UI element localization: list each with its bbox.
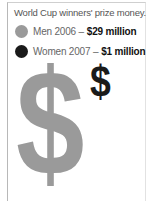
grey-dot-icon: [15, 25, 28, 38]
women-dollar-icon: $: [90, 60, 111, 104]
legend-value: $29 million: [87, 26, 137, 37]
chart-title: World Cup winners' prize money.: [14, 7, 146, 18]
legend-label: Men 2006 –: [33, 26, 84, 37]
legend-item-men: Men 2006 – $29 million: [15, 24, 136, 38]
legend-value: $1 million: [101, 46, 145, 57]
men-dollar-icon: $: [16, 48, 84, 198]
